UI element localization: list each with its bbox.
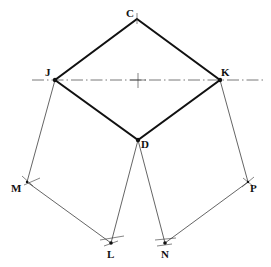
rhombus-ckdj (55, 19, 220, 140)
label-j: J (45, 66, 51, 78)
label-d: D (141, 138, 149, 150)
center-cross-mark (130, 73, 146, 88)
geometry-diagram: C J K D M P L N (0, 0, 271, 267)
label-k: K (221, 66, 230, 78)
label-c: C (126, 7, 134, 19)
label-l: L (107, 248, 114, 260)
point-markers (26, 78, 249, 245)
arc-ticks (22, 176, 254, 246)
label-p: P (250, 182, 257, 194)
construction-lines (27, 80, 248, 243)
label-n: N (161, 248, 169, 260)
label-m: M (11, 182, 22, 194)
